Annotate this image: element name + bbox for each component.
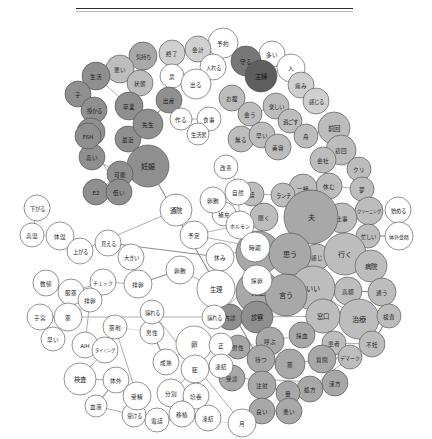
graph-node[interactable]: 採卵: [242, 265, 272, 295]
graph-node[interactable]: 血液: [85, 395, 107, 417]
node-circle: [187, 123, 209, 145]
node-circle: [159, 40, 185, 66]
node-circle: [78, 288, 102, 312]
graph-node[interactable]: 卵胞: [200, 187, 226, 213]
graph-node[interactable]: 下がる: [24, 195, 50, 221]
graph-node[interactable]: 通院: [160, 194, 192, 226]
graph-node[interactable]: 低い: [106, 179, 132, 205]
graph-node[interactable]: 悪い: [276, 398, 302, 424]
graph-node[interactable]: 舟: [294, 124, 318, 148]
graph-node[interactable]: 処方: [297, 376, 323, 402]
node-circle: [275, 349, 305, 379]
node-circle: [310, 147, 336, 173]
graph-node[interactable]: 薬: [275, 349, 305, 379]
node-circle: [200, 187, 226, 213]
graph-node[interactable]: 始める: [385, 197, 411, 223]
graph-node[interactable]: 妊娠: [127, 145, 169, 187]
graph-node[interactable]: 見える: [95, 230, 121, 256]
graph-node[interactable]: 検査: [64, 363, 96, 395]
graph-node[interactable]: 胚: [181, 355, 209, 383]
graph-node[interactable]: 改善: [214, 155, 238, 179]
graph-node[interactable]: 電話: [145, 408, 169, 432]
node-circle: [297, 376, 323, 402]
graph-node[interactable]: 出る: [181, 69, 211, 99]
graph-node[interactable]: 体外受精: [385, 222, 413, 250]
graph-node[interactable]: 早い: [41, 327, 65, 351]
graph-node[interactable]: 先生: [133, 109, 163, 139]
node-circle: [368, 278, 396, 306]
graph-node[interactable]: 票: [160, 64, 184, 88]
graph-node[interactable]: 注射: [248, 371, 276, 399]
graph-node[interactable]: 生活習: [187, 123, 209, 145]
graph-node[interactable]: 成熟: [153, 349, 179, 375]
node-circle: [118, 244, 144, 270]
graph-node[interactable]: 移植: [169, 401, 195, 427]
graph-node[interactable]: 予定: [180, 221, 208, 249]
graph-node[interactable]: 美容: [265, 134, 291, 160]
node-circle: [265, 134, 291, 160]
graph-node[interactable]: 月: [228, 409, 256, 437]
graph-node[interactable]: 主婦: [245, 60, 277, 92]
top-rule-divider: [76, 8, 353, 9]
graph-node[interactable]: 採れる: [202, 305, 226, 329]
graph-node[interactable]: 漢方: [322, 370, 348, 396]
graph-node[interactable]: 凍結: [195, 405, 221, 431]
graph-node[interactable]: 排卵: [78, 288, 102, 312]
graph-node[interactable]: 待つ: [247, 345, 275, 373]
node-circle: [303, 88, 329, 114]
graph-node[interactable]: クリーニング: [355, 197, 383, 225]
node-circle: [322, 370, 348, 396]
graph-node[interactable]: 採血: [289, 322, 315, 348]
node-circle: [170, 108, 192, 130]
graph-node[interactable]: 休み: [206, 243, 234, 271]
node-circle: [166, 256, 194, 284]
graph-node[interactable]: 自然: [225, 179, 251, 205]
graph-node[interactable]: 卵胞: [166, 256, 194, 284]
graph-node[interactable]: 時期: [240, 232, 270, 262]
figure-page: 予約終了会計入れる多い人守る主婦気持ち悪い状態票出る生活子授かる赤ちゃん卒業最近…: [0, 0, 432, 439]
graph-node[interactable]: 不妊: [359, 331, 385, 357]
graph-node[interactable]: 検査: [377, 304, 401, 328]
node-circle: [228, 409, 256, 437]
node-circle: [103, 315, 127, 339]
graph-node[interactable]: 凍結: [209, 354, 233, 378]
node-circle: [123, 382, 151, 410]
graph-node[interactable]: 作る: [170, 108, 192, 130]
node-circle: [197, 270, 235, 308]
node-circle: [214, 155, 238, 179]
graph-node[interactable]: 質問: [308, 345, 336, 373]
node-circle: [355, 197, 383, 225]
graph-node[interactable]: 採れる: [140, 300, 164, 324]
graph-node[interactable]: 大きい: [118, 244, 144, 270]
graph-node[interactable]: 生理: [197, 270, 235, 308]
node-circle: [75, 123, 101, 149]
graph-node[interactable]: 病院: [355, 250, 387, 282]
graph-node[interactable]: 終了: [159, 40, 185, 66]
graph-node[interactable]: デマーク: [338, 345, 362, 369]
graph-node[interactable]: 薬剤: [103, 315, 127, 339]
graph-node[interactable]: 上がる: [67, 238, 93, 264]
graph-node[interactable]: 薬: [54, 303, 82, 331]
graph-node[interactable]: 通う: [368, 278, 396, 306]
graph-node[interactable]: タイミング: [92, 337, 118, 363]
graph-node[interactable]: 子宮: [27, 304, 53, 330]
graph-node[interactable]: E2: [83, 179, 109, 205]
graph-node[interactable]: 受精: [123, 382, 151, 410]
graph-node[interactable]: 会社: [310, 147, 336, 173]
graph-node[interactable]: 高温: [20, 223, 44, 247]
co-occurrence-network-graph: 予約終了会計入れる多い人守る主婦気持ち悪い状態票出る生活子授かる赤ちゃん卒業最近…: [0, 14, 432, 439]
node-circle: [20, 223, 44, 247]
graph-node[interactable]: 感じる: [303, 88, 329, 114]
node-circle: [338, 345, 362, 369]
graph-node[interactable]: 数値: [33, 270, 59, 296]
node-circle: [225, 179, 251, 205]
node-circle: [133, 109, 163, 139]
node-circle: [140, 300, 164, 324]
graph-node[interactable]: 正: [209, 333, 233, 357]
node-circle: [67, 238, 93, 264]
graph-node[interactable]: 排卵: [124, 270, 152, 298]
graph-node[interactable]: 聞く: [250, 203, 278, 231]
top-rule-shadow: [76, 11, 353, 12]
node-circle: [289, 322, 315, 348]
graph-node[interactable]: FSH: [75, 123, 101, 149]
